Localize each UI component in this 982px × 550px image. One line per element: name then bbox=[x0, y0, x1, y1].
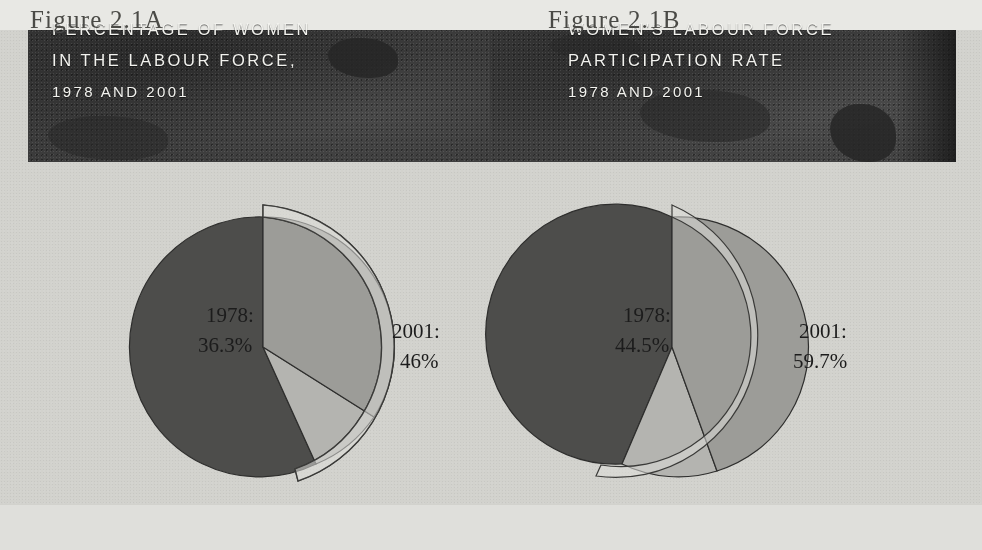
banner-texture-blotch bbox=[830, 104, 896, 162]
figure-b-caption: Figure 2.1B bbox=[548, 6, 681, 34]
banner-texture-blotch bbox=[328, 38, 398, 78]
pie-a-2001-label-line1: 2001: bbox=[392, 319, 440, 343]
figure-a-heading-line2: IN THE LABOUR FORCE, bbox=[52, 51, 297, 69]
pie-b-2001-label-line1: 2001: bbox=[799, 319, 847, 343]
pie-a-1978-label-line1: 1978: bbox=[206, 303, 254, 327]
figure-a-caption: Figure 2.1A bbox=[30, 6, 164, 34]
scanned-page: PERCENTAGE OF WOMENIN THE LABOUR FORCE,1… bbox=[0, 0, 982, 550]
figure-a-pie-svg: 1978: 36.3% 2001: 46% bbox=[10, 170, 480, 505]
pie-b-1978-label-line2: 44.5% bbox=[615, 333, 669, 357]
pie-a-1978-label-line2: 36.3% bbox=[198, 333, 252, 357]
pie-a-2001-label-line2: 46% bbox=[400, 349, 439, 373]
figure-a-pie-chart: 1978: 36.3% 2001: 46% bbox=[10, 170, 480, 505]
pie-b-1978-label-line1: 1978: bbox=[623, 303, 671, 327]
figure-b-heading-line2: PARTICIPATION RATE bbox=[568, 51, 785, 69]
figure-b-pie-chart: 1978: 44.5% 2001: 59.7% bbox=[475, 170, 945, 505]
figure-b-heading-line3: 1978 AND 2001 bbox=[568, 83, 705, 100]
page-bottom-margin bbox=[0, 505, 982, 550]
figure-b-pie-svg: 1978: 44.5% 2001: 59.7% bbox=[475, 170, 945, 505]
pie-b-2001-label-line2: 59.7% bbox=[793, 349, 847, 373]
banner-texture-blotch bbox=[48, 116, 168, 160]
figure-a-heading-line3: 1978 AND 2001 bbox=[52, 83, 189, 100]
